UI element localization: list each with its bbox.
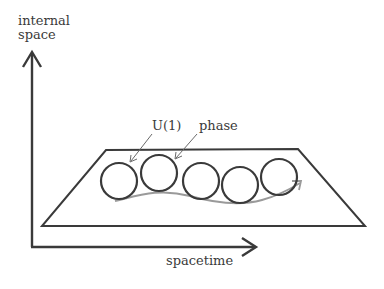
internal-space-label-line2: space [18, 28, 70, 42]
diagram-svg [0, 0, 384, 289]
phase-curve [115, 181, 301, 203]
u1-label: U(1) [152, 119, 181, 133]
u1-circle [101, 163, 137, 199]
internal-space-label: internal space [18, 14, 70, 42]
diagram-canvas: internal space spacetime U(1) phase [0, 0, 384, 289]
spacetime-plane [42, 149, 365, 226]
phase-label: phase [199, 119, 238, 133]
u1-circle [261, 159, 297, 195]
spacetime-label: spacetime [166, 254, 233, 268]
internal-space-label-line1: internal [18, 14, 70, 28]
phase-pointer-arrow [175, 134, 197, 159]
u1-circle [222, 167, 258, 203]
internal-space-axis [23, 52, 41, 247]
u1-circle [141, 155, 177, 191]
u1-circle [183, 163, 219, 199]
